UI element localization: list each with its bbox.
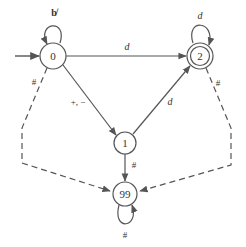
state-label-1: 1 [122, 137, 128, 149]
label-loop-2: d [198, 10, 204, 21]
label-edge-2-99: # [216, 78, 221, 88]
loop-99 [118, 205, 134, 224]
label-edge-0-1: +, − [71, 97, 86, 107]
loop-2 [192, 25, 210, 45]
label-edge-1-99: # [132, 160, 137, 170]
label-edge-0-99: # [32, 77, 37, 87]
loop-0 [45, 26, 62, 44]
label-loop-0: b̸ [51, 7, 59, 18]
label-edge-1-2: d [168, 96, 174, 107]
edge-1-2 [133, 66, 190, 134]
state-label-99: 99 [120, 188, 132, 200]
diagram-svg: 0 2 1 99 b̸ d +, − d d # # # # [0, 0, 246, 247]
state-diagram: 0 2 1 99 b̸ d +, − d d # # # # [0, 0, 246, 247]
state-label-2: 2 [197, 50, 203, 62]
label-loop-99: # [123, 230, 128, 240]
state-label-0: 0 [50, 50, 56, 62]
label-edge-0-2: d [125, 41, 131, 52]
